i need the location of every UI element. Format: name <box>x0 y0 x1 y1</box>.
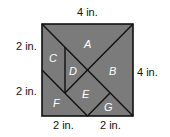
piece-label-b: B <box>109 65 116 77</box>
dim-bottom-left: 2 in. <box>53 120 74 131</box>
piece-label-e: E <box>82 88 90 100</box>
dim-top: 4 in. <box>77 7 98 18</box>
piece-label-a: A <box>83 38 91 50</box>
dim-right: 4 in. <box>137 67 158 78</box>
dim-left-upper: 2 in. <box>16 41 37 52</box>
dim-bottom-right: 2 in. <box>100 120 121 131</box>
piece-label-c: C <box>49 52 57 64</box>
dim-left-lower: 2 in. <box>16 86 37 97</box>
piece-label-g: G <box>104 101 113 113</box>
piece-label-d: D <box>69 65 77 77</box>
